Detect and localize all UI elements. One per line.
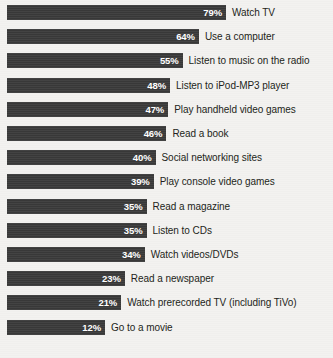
bar-value-label: 35% (7, 199, 147, 214)
bar-row: 12%Go to a movie (0, 320, 333, 336)
bar-value-label: 46% (7, 126, 166, 141)
bar-value-label: 40% (7, 150, 156, 165)
horizontal-bar-chart: 79%Watch TV64%Use a computer55%Listen to… (0, 0, 333, 358)
bar-value-label: 39% (7, 174, 154, 189)
bar-category-label: Play console video games (160, 174, 275, 189)
bar-row: 55%Listen to music on the radio (0, 53, 333, 69)
bar-category-label: Watch prerecorded TV (including TiVo) (127, 295, 296, 310)
bar-row: 79%Watch TV (0, 5, 333, 21)
bar-row: 39%Play console video games (0, 174, 333, 190)
bar-row: 48%Listen to iPod-MP3 player (0, 78, 333, 94)
bar-value-label: 35% (7, 223, 147, 238)
bar-row: 23%Read a newspaper (0, 271, 333, 287)
bar-category-label: Social networking sites (162, 150, 263, 165)
chart-surface: 79%Watch TV64%Use a computer55%Listen to… (0, 0, 333, 358)
bar-row: 35%Listen to CDs (0, 223, 333, 239)
bar-value-label: 64% (7, 29, 199, 44)
bar-row: 35%Read a magazine (0, 199, 333, 215)
bar-category-label: Listen to CDs (153, 223, 212, 238)
bar-value-label: 12% (7, 320, 105, 335)
bar-value-label: 48% (7, 78, 170, 93)
bar-category-label: Watch videos/DVDs (151, 247, 239, 262)
bar-value-label: 79% (7, 5, 226, 20)
bar-row: 40%Social networking sites (0, 150, 333, 166)
bar-category-label: Watch TV (232, 5, 275, 20)
bar-value-label: 21% (7, 295, 121, 310)
bar-value-label: 23% (7, 271, 125, 286)
bar-category-label: Read a magazine (153, 199, 231, 214)
bar-row: 64%Use a computer (0, 29, 333, 45)
bar-category-label: Go to a movie (111, 320, 173, 335)
bar-row: 47%Play handheld video games (0, 102, 333, 118)
bar-category-label: Play handheld video games (174, 102, 296, 117)
bar-value-label: 34% (7, 247, 145, 262)
bar-category-label: Read a newspaper (131, 271, 214, 286)
bar-row: 46%Read a book (0, 126, 333, 142)
bar-value-label: 47% (7, 102, 168, 117)
bar-category-label: Use a computer (205, 29, 275, 44)
bar-row: 21%Watch prerecorded TV (including TiVo) (0, 295, 333, 311)
bar-category-label: Listen to music on the radio (189, 53, 310, 68)
bar-row: 34%Watch videos/DVDs (0, 247, 333, 263)
bar-category-label: Read a book (172, 126, 228, 141)
bar-value-label: 55% (7, 53, 183, 68)
bar-category-label: Listen to iPod-MP3 player (176, 78, 289, 93)
